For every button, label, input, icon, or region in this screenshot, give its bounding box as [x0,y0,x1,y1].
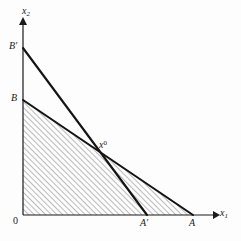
y-axis-arrow-icon [19,17,27,25]
point-label-b: B [11,93,17,103]
x-axis-label: x1 [220,208,228,220]
y-axis-label: x2 [22,6,30,18]
x-axis-arrow-icon [213,211,220,219]
point-label-a: A [189,218,195,228]
point-label-b-prime: B′ [9,41,17,51]
point-label-x-zero: x0 [99,140,107,150]
point-label-a-prime: A′ [140,218,148,228]
figure-container: x2 x1 B′ B 0 x0 A′ A [0,0,241,241]
diagram-canvas [0,0,241,241]
point-label-origin: 0 [13,216,18,226]
